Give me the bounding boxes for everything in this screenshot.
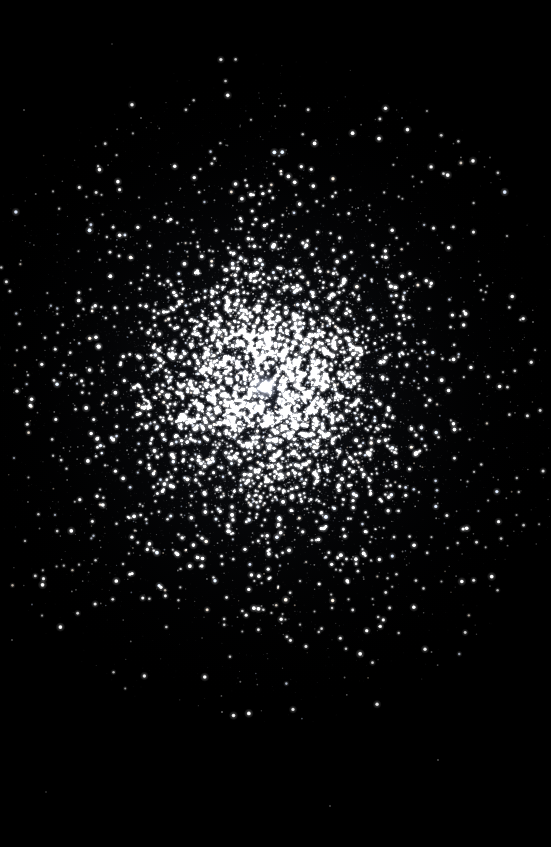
starfield-image: Globular Cluster Star Field Dense spheri… — [0, 0, 551, 847]
star-cluster-canvas — [0, 0, 551, 847]
